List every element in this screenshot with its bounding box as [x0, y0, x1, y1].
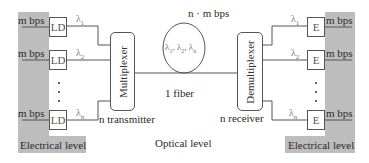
laser-diode-n: LD	[49, 110, 67, 130]
fiber-wavelengths: λ1, λ2, λn	[165, 43, 196, 54]
right-lambda-n: λn	[289, 108, 297, 121]
left-rate-label-1: m bps	[18, 15, 45, 26]
left-ellipsis-dot	[58, 82, 60, 84]
right-rate-label-n: m bps	[326, 108, 353, 119]
left-rate-label-2: m bps	[18, 48, 45, 59]
right-ellipsis-dot	[315, 91, 317, 93]
optical-level-label: Optical level	[155, 138, 212, 149]
demultiplexer-label: Demultiplexer	[244, 40, 256, 104]
laser-diode-2: LD	[49, 50, 67, 70]
left-ellipsis-dot	[58, 100, 60, 102]
right-rate-label-1: m bps	[326, 15, 353, 26]
left-ellipsis-dot	[58, 91, 60, 93]
left-lambda-2: λ2	[76, 48, 84, 61]
multiplexer-box: Multiplexer	[110, 32, 135, 111]
right-ellipsis-dot	[315, 82, 317, 84]
left-rate-label-n: m bps	[18, 108, 45, 119]
multiplexer-caption: n transmitter	[99, 114, 155, 125]
receiver-1: E	[307, 17, 325, 37]
receiver-2: E	[307, 50, 325, 70]
right-rate-label-2: m bps	[326, 48, 353, 59]
laser-diode-1: LD	[49, 17, 67, 37]
left-lambda-n: λn	[76, 108, 84, 121]
right-electrical-level-label: Electrical level	[288, 140, 354, 151]
multiplexer-label: Multiplexer	[117, 46, 129, 98]
right-lambda-2: λ2	[291, 48, 299, 61]
demultiplexer-caption: n receiver	[220, 113, 264, 124]
right-ellipsis-dot	[315, 100, 317, 102]
left-lambda-1: λ1	[76, 14, 84, 27]
right-lambda-1: λ1	[291, 14, 299, 27]
receiver-n: E	[307, 110, 325, 130]
fiber-rate-label: n · m bps	[188, 8, 229, 19]
demultiplexer-box: Demultiplexer	[237, 32, 263, 111]
fiber-label: 1 fiber	[165, 88, 194, 99]
left-electrical-level-label: Electrical level	[20, 140, 86, 151]
